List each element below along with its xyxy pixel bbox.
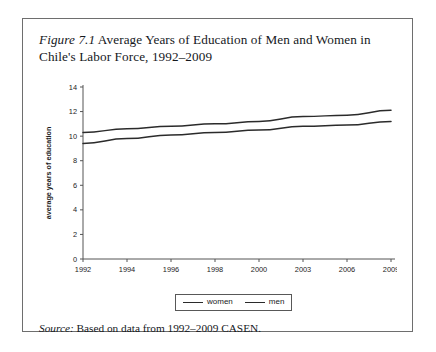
y-tick-label: 10 [69,132,77,141]
y-tick-label: 12 [69,107,77,116]
x-tick-label: 2003 [295,265,311,274]
x-tick-label: 1996 [163,265,179,274]
figure-number: Figure 7.1 [39,32,95,47]
y-tick-label: 0 [73,255,77,264]
line-chart-svg: average years of education 02468101214 1… [39,77,397,277]
chart-plot-area: average years of education 02468101214 1… [39,77,397,277]
data-line-women [83,110,391,132]
figure-title: Figure 7.1 Average Years of Education of… [39,31,391,65]
source-label: Source: [39,322,74,334]
legend-item-men[interactable]: men [245,297,285,307]
data-line-men [83,121,391,143]
y-tick-label: 6 [73,181,77,190]
legend-line-swatch-women [183,302,203,303]
x-tick-label: 1998 [207,265,223,274]
source-note: Source: Based on data from 1992–2009 CAS… [39,321,389,335]
x-tick-label: 2000 [251,265,267,274]
y-tick-label: 2 [73,230,77,239]
x-tick-label: 2009 [383,265,397,274]
legend-label-men: men [269,297,285,307]
y-axis-title-group: average years of education [44,127,53,220]
x-tick-label: 1992 [75,265,91,274]
y-tick-label: 14 [69,83,77,92]
y-axis-title: average years of education [44,127,53,220]
figure-root: Figure 7.1 Average Years of Education of… [0,0,436,352]
data-series-group [83,110,391,143]
y-axis-ticks-group: 02468101214 [69,83,83,264]
legend-label-women: women [207,297,233,307]
y-tick-label: 4 [73,205,77,214]
x-axis-ticks-group: 19921994199619982000200320062009 [75,259,397,274]
x-tick-label: 1994 [119,265,135,274]
figure-border-box: Figure 7.1 Average Years of Education of… [22,18,413,332]
legend-item-women[interactable]: women [183,297,233,307]
axis-lines-group [83,85,395,259]
source-text: Based on data from 1992–2009 CASEN. [74,322,261,334]
legend-line-swatch-men [245,302,265,303]
y-tick-label: 8 [73,156,77,165]
x-tick-label: 2006 [339,265,355,274]
chart-legend: women men [175,294,292,311]
